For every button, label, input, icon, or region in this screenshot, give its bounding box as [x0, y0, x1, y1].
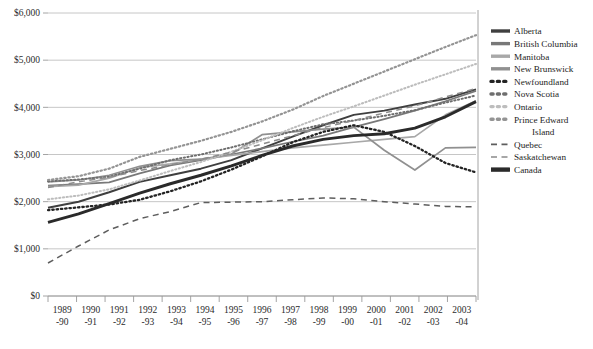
legend-label-ontario[interactable]: Ontario: [514, 102, 542, 112]
xtick-label-year: 1993: [167, 305, 186, 315]
ytick-label: $2,000: [14, 197, 40, 207]
series-line-saskatchewan: [48, 88, 476, 187]
legend-label-newfoundland[interactable]: Newfoundland: [514, 77, 569, 87]
legend-label-saskatchewan[interactable]: Saskatchewan: [514, 152, 566, 162]
legend-label-british-columbia[interactable]: British Columbia: [514, 39, 578, 49]
xtick-label-year2: -03: [427, 317, 440, 327]
chart-legend: AlbertaBritish ColumbiaManitobaNew Bruns…: [478, 10, 578, 300]
xtick-label-year: 2000: [367, 305, 386, 315]
line-chart: $0$1,000$2,000$3,000$4,000$5,000$6,00019…: [0, 0, 593, 349]
xtick-label-year: 1989: [53, 305, 72, 315]
x-axis: 1989-901990-911991-921992-931993-941994-…: [48, 296, 476, 327]
series-line-quebec: [48, 198, 476, 263]
legend-label-canada[interactable]: Canada: [514, 165, 542, 175]
legend-label-manitoba[interactable]: Manitoba: [514, 52, 549, 62]
xtick-label-year2: -95: [199, 317, 212, 327]
xtick-label-year2: -99: [313, 317, 326, 327]
xtick-label-year: 1990: [81, 305, 100, 315]
xtick-label-year2: -90: [56, 317, 69, 327]
xtick-label-year2: -92: [113, 317, 126, 327]
chart-container: $0$1,000$2,000$3,000$4,000$5,000$6,00019…: [0, 0, 593, 349]
xtick-label-year: 1998: [310, 305, 329, 315]
xtick-label-year: 1995: [224, 305, 243, 315]
xtick-label-year2: -94: [170, 317, 183, 327]
xtick-label-year2: -96: [227, 317, 240, 327]
xtick-label-year: 1999: [338, 305, 357, 315]
xtick-label-year: 1996: [253, 305, 272, 315]
xtick-label-year2: -02: [398, 317, 411, 327]
ytick-label: $1,000: [14, 244, 40, 254]
ytick-label: $6,000: [14, 8, 40, 18]
ytick-label: $4,000: [14, 103, 40, 113]
xtick-label-year: 1997: [281, 305, 300, 315]
ytick-label: $5,000: [14, 55, 40, 65]
xtick-label-year2: -91: [84, 317, 97, 327]
series-group: [48, 35, 476, 263]
ytick-label: $0: [31, 291, 41, 301]
xtick-label-year: 1992: [138, 305, 157, 315]
legend-label-alberta[interactable]: Alberta: [514, 26, 542, 36]
legend-label-new-brunswick[interactable]: New Brunswick: [514, 64, 574, 74]
xtick-label-year2: -01: [370, 317, 383, 327]
xtick-label-year: 1994: [195, 305, 214, 315]
legend-label-island[interactable]: Island: [532, 127, 555, 137]
series-line-ontario: [48, 64, 476, 199]
xtick-label-year2: -00: [341, 317, 354, 327]
legend-label-quebec[interactable]: Quebec: [514, 140, 542, 150]
xtick-label-year2: -97: [256, 317, 269, 327]
xtick-label-year: 2002: [424, 305, 443, 315]
xtick-label-year2: -93: [142, 317, 155, 327]
xtick-label-year2: -04: [455, 317, 468, 327]
xtick-label-year: 2001: [395, 305, 414, 315]
legend-label-nova-scotia[interactable]: Nova Scotia: [514, 89, 559, 99]
xtick-label-year: 2003: [452, 305, 471, 315]
xtick-label-year: 1991: [110, 305, 129, 315]
ytick-label: $3,000: [14, 150, 40, 160]
legend-label-prince-edward[interactable]: Prince Edward: [514, 115, 569, 125]
xtick-label-year2: -98: [284, 317, 297, 327]
